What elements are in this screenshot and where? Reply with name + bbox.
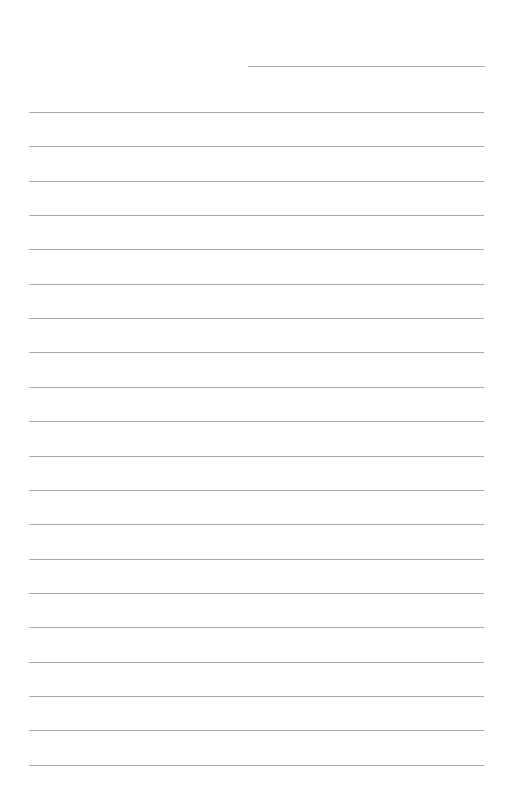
ruled-line [29,524,484,525]
ruled-line [29,456,484,457]
ruled-line [29,318,484,319]
ruled-line [29,146,484,147]
ruled-line [29,696,484,697]
ruled-line [29,627,484,628]
ruled-line [29,662,484,663]
ruled-line [29,593,484,594]
ruled-line [29,559,484,560]
ruled-line [29,352,484,353]
ruled-line [29,387,484,388]
ruled-line [29,284,484,285]
ruled-line [29,181,484,182]
lined-paper-page [0,0,507,811]
ruled-line [29,215,484,216]
ruled-line [29,730,484,731]
header-line [248,66,485,67]
ruled-line [29,765,484,766]
ruled-line [29,490,484,491]
ruled-line [29,249,484,250]
ruled-line [29,112,484,113]
ruled-line [29,421,484,422]
